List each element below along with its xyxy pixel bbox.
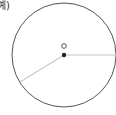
hollow-point-icon	[62, 44, 67, 49]
center-point-icon	[62, 53, 66, 57]
radius-line-lower-left	[20, 55, 64, 82]
circle-diagram	[0, 0, 116, 115]
